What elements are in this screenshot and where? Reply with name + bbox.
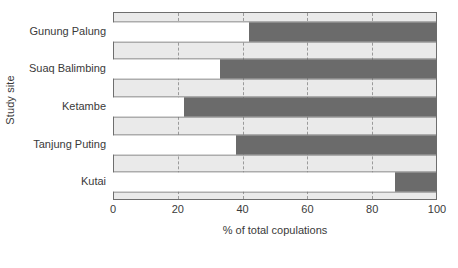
chart-figure: Study site Gunung PalungSuaq BalimbingKe…	[0, 0, 458, 268]
x-tick-label: 100	[428, 203, 446, 215]
x-axis-tick-labels: 020406080100	[113, 201, 437, 217]
bar-segment-dark	[220, 60, 437, 79]
y-tick-label: Ketambe	[62, 100, 106, 112]
bar-segment-dark	[236, 135, 437, 154]
x-tick-label: 60	[301, 203, 313, 215]
x-tick-label: 40	[236, 203, 248, 215]
x-tick-label: 0	[110, 203, 116, 215]
bar-segment-white	[113, 22, 249, 41]
y-tick-label: Tanjung Puting	[33, 138, 106, 150]
y-tick-label: Suaq Balimbing	[29, 62, 106, 74]
bar-segment-dark	[249, 22, 437, 41]
x-tick-label: 80	[366, 203, 378, 215]
y-tick-label: Gunung Palung	[30, 25, 106, 37]
bar-row	[113, 172, 437, 193]
bar-row	[113, 21, 437, 42]
bar-segment-white	[113, 98, 184, 117]
y-axis-title-text: Study site	[4, 75, 16, 124]
bar-segment-dark	[395, 173, 437, 192]
x-axis-title: % of total copulations	[113, 224, 437, 236]
bar-segment-white	[113, 173, 395, 192]
bar-row	[113, 97, 437, 118]
y-tick-label: Kutai	[81, 175, 106, 187]
bar-series	[114, 13, 436, 199]
y-axis-tick-labels: Gunung PalungSuaq BalimbingKetambeTanjun…	[18, 12, 110, 200]
bar-row	[113, 134, 437, 155]
bar-segment-white	[113, 135, 236, 154]
plot-area	[113, 12, 437, 200]
x-tick-label: 20	[172, 203, 184, 215]
y-axis-title: Study site	[0, 0, 20, 200]
bar-segment-dark	[184, 98, 437, 117]
bar-row	[113, 59, 437, 80]
bar-segment-white	[113, 60, 220, 79]
